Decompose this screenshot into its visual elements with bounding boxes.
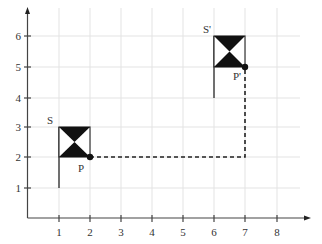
x-tick-7: 7	[242, 226, 248, 238]
grid	[27, 8, 300, 218]
flag-s	[59, 127, 93, 188]
y-tick-4: 4	[16, 92, 22, 104]
x-tick-6: 6	[211, 226, 217, 238]
x-tick-3: 3	[118, 226, 124, 238]
label-s-prime: S'	[203, 23, 211, 35]
y-tick-6: 6	[16, 30, 22, 42]
y-tick-labels: 6 5 4 3 2 1	[16, 30, 22, 194]
point-p-prime	[242, 64, 248, 70]
y-tick-1: 1	[16, 182, 22, 194]
x-tick-labels: 1 2 3 4 5 6 7 8	[56, 226, 280, 238]
x-tick-1: 1	[56, 226, 62, 238]
label-p: P	[78, 162, 84, 174]
coordinate-plane: 6 5 4 3 2 1 1 2 3 4 5 6 7 8 S P S' P'	[0, 0, 322, 244]
x-tick-2: 2	[87, 226, 93, 238]
point-p	[87, 154, 93, 160]
x-tick-4: 4	[149, 226, 155, 238]
flag-s-prime	[214, 36, 248, 98]
y-tick-5: 5	[16, 61, 22, 73]
translation-path	[90, 67, 245, 157]
x-tick-5: 5	[180, 226, 186, 238]
y-tick-2: 2	[16, 151, 22, 163]
axes	[24, 7, 311, 222]
label-s: S	[47, 114, 53, 126]
y-tick-3: 3	[16, 121, 22, 133]
x-tick-8: 8	[274, 226, 280, 238]
label-p-prime: P'	[233, 70, 241, 82]
